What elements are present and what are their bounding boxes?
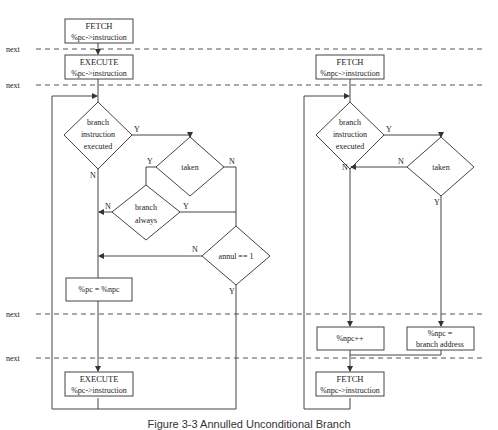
svg-text:branch address: branch address [416, 340, 464, 349]
svg-text:%npc =: %npc = [428, 329, 453, 338]
svg-text:executed: executed [336, 142, 364, 151]
svg-text:N: N [229, 157, 235, 166]
svg-text:Y: Y [147, 157, 153, 166]
svg-text:Y: Y [183, 202, 189, 211]
svg-text:%npc++: %npc++ [336, 334, 364, 343]
left-flow: FETCH %pc->instruction EXECUTE %pc->inst… [52, 19, 270, 409]
svg-text:branch: branch [339, 118, 361, 127]
increment-npc-box: %npc++ [317, 327, 384, 350]
svg-text:N: N [192, 245, 198, 254]
svg-text:%npc->instruction: %npc->instruction [320, 386, 380, 395]
svg-text:EXECUTE: EXECUTE [80, 374, 119, 384]
svg-text:%pc = %npc: %pc = %npc [79, 285, 120, 294]
fetch-box: FETCH %npc->instruction [316, 55, 384, 79]
svg-text:N: N [90, 171, 96, 180]
next-label: next [6, 81, 21, 90]
svg-text:N: N [398, 157, 404, 166]
svg-text:%pc->instruction: %pc->instruction [71, 386, 127, 395]
fetch-box-2: FETCH %npc->instruction [316, 372, 384, 396]
execute-box: EXECUTE %pc->instruction [65, 55, 133, 79]
execute-box-2: EXECUTE %pc->instruction [65, 372, 133, 396]
decision-branch-executed: branch instruction executed Y N [316, 102, 392, 172]
next-label: next [6, 45, 21, 54]
svg-text:instruction: instruction [333, 130, 367, 139]
figure-caption: Figure 3-3 Annulled Unconditional Branch [0, 418, 498, 430]
svg-text:%pc->instruction: %pc->instruction [71, 69, 127, 78]
svg-text:FETCH: FETCH [337, 57, 364, 67]
decision-branch-executed: branch instruction executed Y N [64, 102, 140, 180]
decision-annul: annul == 1 N Y [192, 226, 270, 296]
svg-text:instruction: instruction [81, 130, 115, 139]
svg-text:executed: executed [84, 142, 112, 151]
svg-text:FETCH: FETCH [337, 374, 364, 384]
svg-text:N: N [105, 202, 111, 211]
svg-text:EXECUTE: EXECUTE [80, 57, 119, 67]
svg-text:taken: taken [181, 163, 198, 172]
fetch-box: FETCH %pc->instruction [65, 19, 133, 43]
svg-text:annul == 1: annul == 1 [219, 252, 254, 261]
svg-text:branch: branch [135, 203, 157, 212]
next-label: next [6, 354, 21, 363]
svg-text:FETCH: FETCH [86, 21, 113, 31]
svg-text:%pc->instruction: %pc->instruction [71, 33, 127, 42]
decision-taken: taken N Y [398, 137, 474, 207]
branch-address-box: %npc = branch address [407, 327, 474, 350]
svg-text:N: N [342, 163, 348, 172]
svg-text:always: always [135, 216, 157, 225]
svg-text:Y: Y [434, 198, 440, 207]
svg-text:Y: Y [229, 287, 235, 296]
svg-text:Y: Y [134, 125, 140, 134]
timeline: next next next next [6, 45, 482, 363]
decision-taken: taken Y N [147, 137, 235, 196]
svg-text:taken: taken [432, 163, 449, 172]
svg-text:Y: Y [386, 125, 392, 134]
decision-branch-always: branch always Y N [105, 185, 189, 240]
flowchart-canvas: next next next next FETCH %pc->instructi… [0, 0, 498, 430]
svg-text:branch: branch [87, 118, 109, 127]
next-label: next [6, 310, 21, 319]
assign-pc-box: %pc = %npc [66, 278, 132, 301]
right-flow: FETCH %npc->instruction branch instructi… [304, 55, 474, 409]
svg-text:%npc->instruction: %npc->instruction [320, 69, 380, 78]
